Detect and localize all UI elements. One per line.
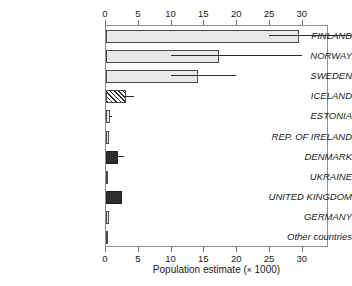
bar-germany xyxy=(106,211,109,224)
x-axis-bottom-tick-20 xyxy=(236,247,237,252)
category-label-iceland: ICELAND xyxy=(250,90,352,101)
error-bar-norway xyxy=(171,55,302,56)
x-axis-bottom-tick-label-5: 5 xyxy=(125,253,151,264)
error-bar-sweden xyxy=(171,75,237,76)
x-axis-title-unit: 1000) xyxy=(252,264,280,275)
x-axis-top-tick-label-30: 30 xyxy=(289,8,315,19)
x-axis-top-tick-label-10: 10 xyxy=(158,8,184,19)
x-axis-bottom-tick-15 xyxy=(203,247,204,252)
x-axis-bottom-tick-label-20: 20 xyxy=(223,253,249,264)
x-axis-top-tick-label-15: 15 xyxy=(190,8,216,19)
x-axis-bottom-tick-25 xyxy=(269,247,270,252)
x-axis-bottom-tick-0 xyxy=(105,247,106,252)
x-axis-bottom-tick-label-30: 30 xyxy=(289,253,315,264)
error-bar-estonia xyxy=(109,116,112,117)
x-axis-top-tick-label-20: 20 xyxy=(223,8,249,19)
category-label-united-kingdom: UNITED KINGDOM xyxy=(250,191,352,202)
error-bar-finland xyxy=(269,35,351,36)
bar-denmark xyxy=(106,151,118,164)
bar-other-countries xyxy=(106,231,108,244)
category-label-germany: GERMANY xyxy=(250,211,352,222)
x-axis-top-tick-label-25: 25 xyxy=(256,8,282,19)
error-bar-iceland xyxy=(125,96,134,97)
category-label-sweden: SWEDEN xyxy=(250,70,352,81)
bar-iceland xyxy=(106,90,126,103)
x-axis-title-main: Population estimate ( xyxy=(153,264,247,275)
x-axis-bottom-tick-label-25: 25 xyxy=(256,253,282,264)
category-label-other-countries: Other countries xyxy=(250,231,352,242)
x-axis-bottom-tick-30 xyxy=(302,247,303,252)
category-label-denmark: DENMARK xyxy=(250,151,352,162)
category-label-estonia: ESTONIA xyxy=(250,110,352,121)
x-axis-bottom-tick-10 xyxy=(171,247,172,252)
x-axis-bottom-tick-label-0: 0 xyxy=(92,253,118,264)
bar-norway xyxy=(106,50,219,63)
x-axis-top-tick-label-5: 5 xyxy=(125,8,151,19)
category-label-rep-of-ireland: REP. OF IRELAND xyxy=(250,131,352,142)
x-axis-bottom-tick-label-10: 10 xyxy=(158,253,184,264)
x-axis-top-tick-label-0: 0 xyxy=(92,8,118,19)
bar-rep-of-ireland xyxy=(106,131,109,144)
category-label-ukraine: UKRAINE xyxy=(250,171,352,182)
bar-united-kingdom xyxy=(106,191,122,204)
bar-ukraine xyxy=(106,171,108,184)
error-bar-denmark xyxy=(117,156,124,157)
chart-root: 051015202530 FINLANDNORWAYSWEDENICELANDE… xyxy=(0,0,352,286)
x-axis-bottom-tick-5 xyxy=(138,247,139,252)
x-axis-bottom-tick-label-15: 15 xyxy=(190,253,216,264)
bar-sweden xyxy=(106,70,198,83)
x-axis-title: Population estimate (× 1000) xyxy=(105,264,328,275)
